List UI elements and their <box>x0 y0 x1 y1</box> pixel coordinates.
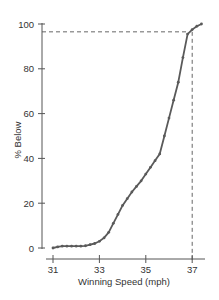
data-point <box>168 117 171 120</box>
y-tick-label: 60 <box>23 108 34 119</box>
data-point <box>121 204 124 207</box>
data-point <box>75 245 78 248</box>
data-point <box>70 245 73 248</box>
y-tick-label: 0 <box>29 243 34 254</box>
y-axis-title: % Below <box>12 121 23 158</box>
data-point <box>98 240 101 243</box>
data-point <box>154 159 157 162</box>
data-point <box>130 191 133 194</box>
data-point <box>79 245 82 248</box>
data-point <box>195 25 198 28</box>
data-point <box>144 173 147 176</box>
data-point <box>52 247 55 250</box>
data-point <box>112 222 115 225</box>
data-point <box>140 179 143 182</box>
data-point <box>172 99 175 102</box>
data-point <box>177 81 180 84</box>
reference-lines <box>42 32 192 263</box>
data-point <box>117 213 120 216</box>
data-point <box>93 242 96 245</box>
data-point <box>182 56 185 59</box>
y-tick-label: 80 <box>23 63 34 74</box>
data-point <box>163 135 166 138</box>
data-point <box>158 153 161 156</box>
data-point <box>61 245 64 248</box>
x-tick-label: 31 <box>48 264 59 275</box>
x-tick-label: 33 <box>94 264 105 275</box>
data-point <box>56 245 59 248</box>
data-point <box>191 28 194 31</box>
x-tick-label: 37 <box>187 264 198 275</box>
data-point <box>84 244 87 247</box>
x-axis: 31333537 <box>46 255 205 275</box>
data-point <box>135 185 138 188</box>
ogive-line <box>53 24 202 248</box>
data-point <box>149 166 152 169</box>
x-axis-title: Winning Speed (mph) <box>78 276 170 287</box>
data-series <box>52 23 203 250</box>
data-point <box>186 33 189 36</box>
data-point <box>126 197 129 200</box>
x-tick-label: 35 <box>141 264 152 275</box>
data-point <box>200 23 203 26</box>
data-point <box>107 231 110 234</box>
data-point <box>89 243 92 246</box>
y-tick-label: 20 <box>23 198 34 209</box>
y-tick-label: 100 <box>18 19 34 30</box>
ogive-chart: 020406080100 31333537 % Below Winning Sp… <box>0 0 219 300</box>
data-point <box>66 245 69 248</box>
data-point <box>103 237 106 240</box>
y-tick-label: 40 <box>23 153 34 164</box>
